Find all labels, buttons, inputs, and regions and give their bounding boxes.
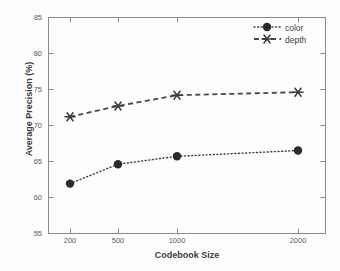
color-marker-500 [114, 160, 122, 168]
x-axis-title: Codebook Size [48, 250, 326, 260]
series-depth [65, 88, 303, 121]
color-marker-200 [66, 179, 74, 187]
legend-marker-depth [262, 35, 272, 43]
chart-figure: 85 80 75 70 65 60 55 200 500 1000 2000 A… [0, 0, 340, 271]
legend-marker-color [263, 23, 271, 31]
y-tick-label-60: 60 [26, 193, 42, 202]
y-tick-label-85: 85 [26, 13, 42, 22]
legend-label-color: color [285, 23, 303, 33]
y-axis-title: Average Precision (%) [24, 34, 34, 184]
x-tick-label-200: 200 [55, 236, 85, 245]
x-tick-label-2000: 2000 [283, 236, 313, 245]
legend-sample-color [254, 23, 281, 31]
series-depth-line [70, 92, 298, 117]
axes-frame [49, 18, 326, 234]
series-color-line [70, 151, 298, 184]
legend-label-depth: depth [285, 35, 306, 45]
plot-border [49, 18, 326, 234]
x-axis-ticks [71, 18, 299, 234]
legend [254, 23, 281, 43]
legend-sample-depth [254, 35, 281, 43]
series-color [66, 146, 302, 188]
y-tick-label-55: 55 [26, 229, 42, 238]
x-tick-label-500: 500 [103, 236, 133, 245]
depth-marker-500 [113, 102, 123, 110]
series-color-markers [66, 146, 302, 188]
depth-marker-200 [65, 113, 75, 121]
y-axis-ticks [49, 18, 326, 234]
x-tick-label-1000: 1000 [162, 236, 192, 245]
depth-marker-2000 [293, 88, 303, 96]
color-marker-2000 [294, 146, 302, 154]
color-marker-1000 [173, 152, 181, 160]
depth-marker-1000 [172, 91, 182, 99]
